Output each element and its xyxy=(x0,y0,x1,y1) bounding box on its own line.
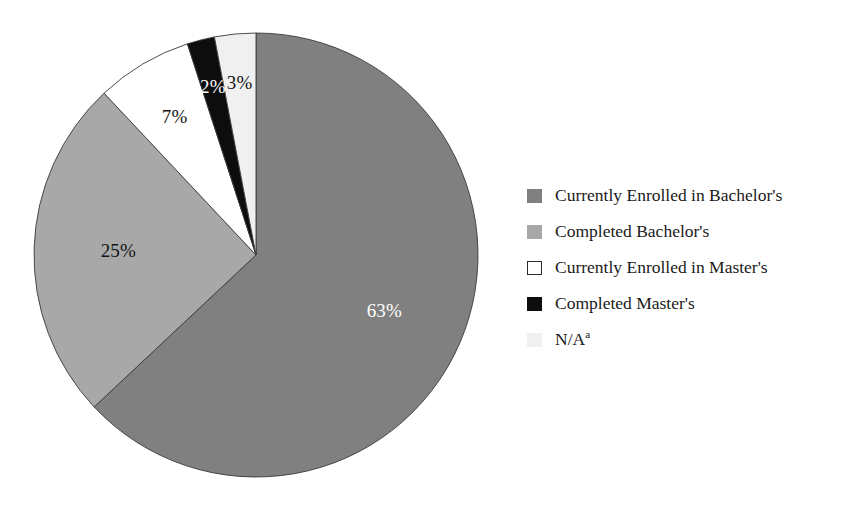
legend-item-label: Currently Enrolled in Bachelor's xyxy=(555,187,782,205)
pie-slice-value-label: 25% xyxy=(101,240,136,261)
pie-slice-value-label: 63% xyxy=(367,300,402,321)
legend-item-label: Currently Enrolled in Master's xyxy=(555,259,768,277)
legend-item[interactable]: Currently Enrolled in Master's xyxy=(527,250,837,286)
legend-swatch-icon xyxy=(527,225,542,239)
legend-item-label: Completed Master's xyxy=(555,295,695,313)
pie-slice-value-label: 7% xyxy=(162,106,188,127)
pie-slice-value-label: 3% xyxy=(227,72,253,93)
legend-swatch-icon xyxy=(527,333,542,347)
legend-swatch-icon xyxy=(527,189,542,203)
legend-item-label: Completed Bachelor's xyxy=(555,223,709,241)
pie-chart-svg: 63%25%7%2%3% xyxy=(28,20,488,490)
legend-item[interactable]: N/Aa xyxy=(527,322,837,358)
legend: Currently Enrolled in Bachelor'sComplete… xyxy=(527,178,837,358)
legend-item-label: N/Aa xyxy=(555,331,590,349)
legend-item[interactable]: Completed Master's xyxy=(527,286,837,322)
legend-item[interactable]: Completed Bachelor's xyxy=(527,214,837,250)
pie-chart-plot-area: 63%25%7%2%3% xyxy=(28,20,488,490)
pie-slice-value-label: 2% xyxy=(200,76,226,97)
legend-swatch-icon xyxy=(527,261,542,275)
legend-swatch-icon xyxy=(527,297,542,311)
legend-footnote-marker: a xyxy=(585,328,590,340)
legend-item[interactable]: Currently Enrolled in Bachelor's xyxy=(527,178,837,214)
pie-chart-figure: 63%25%7%2%3% Currently Enrolled in Bache… xyxy=(0,0,852,509)
